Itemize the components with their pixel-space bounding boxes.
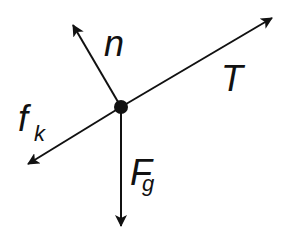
normal-force-label: n [104,26,124,62]
friction-force-subscript: k [34,123,45,145]
tension-force-label: T [221,61,243,97]
object-point [114,100,128,114]
free-body-diagram [0,0,288,240]
tension-force-arrow [121,18,272,107]
friction-force-label: f [18,101,28,137]
gravity-force-subscript: g [142,173,154,195]
